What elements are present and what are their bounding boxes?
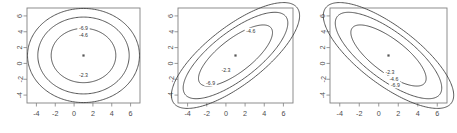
x-axis: -4-20246 <box>337 103 440 118</box>
contour-label: -2.3 <box>385 69 394 75</box>
y-tick-label: 4 <box>319 30 328 34</box>
x-tick-label: 6 <box>435 109 439 118</box>
contour-label: -4.6 <box>389 76 398 82</box>
contour-label-group: -2.3-4.6-6.9 <box>384 69 402 89</box>
y-tick-label: 2 <box>319 46 328 50</box>
x-tick-label: 0 <box>377 109 381 118</box>
y-tick-label: 0 <box>319 61 328 65</box>
distribution-center-marker <box>387 54 389 56</box>
x-tick-label: 4 <box>416 109 420 118</box>
contour-label: -6.9 <box>391 82 400 88</box>
y-tick-label: -2 <box>319 76 328 82</box>
panel-right-canvas: -4-20246-4-20246-2.3-4.6-6.9 <box>0 0 457 133</box>
y-axis: -4-20246 <box>319 14 331 98</box>
x-tick-label: -4 <box>337 109 343 118</box>
x-tick-label: 2 <box>396 109 400 118</box>
panel-right: -4-20246-4-20246-2.3-4.6-6.9 <box>0 0 457 133</box>
y-tick-label: -4 <box>319 92 328 98</box>
contour-figure: -4-20246-4-20246-6.9-4.6-2.3-4-20246-4-2… <box>0 0 457 133</box>
x-tick-label: -2 <box>356 109 362 118</box>
